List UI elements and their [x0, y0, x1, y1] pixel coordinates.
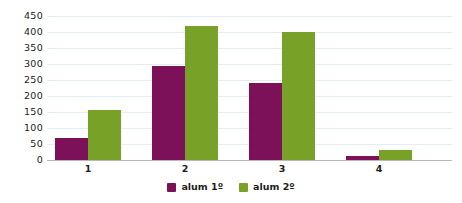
y-axis-tick-label: 250	[3, 75, 43, 85]
plot-area	[47, 16, 452, 160]
y-axis-tick-label: 50	[3, 139, 43, 149]
y-axis-tick-label: 400	[3, 27, 43, 37]
bar	[282, 32, 315, 160]
bar	[249, 83, 282, 160]
bar	[55, 138, 88, 160]
chart-legend: alum 1ºalum 2º	[0, 182, 462, 192]
legend-item[interactable]: alum 1º	[167, 182, 223, 192]
bar-chart: 050100150200250300350400450 1234 alum 1º…	[0, 0, 462, 203]
y-axis-tick-label: 100	[3, 123, 43, 133]
legend-swatch-icon	[167, 183, 176, 192]
x-axis-tick-label: 2	[155, 164, 215, 174]
gridline	[47, 64, 452, 65]
legend-item[interactable]: alum 2º	[239, 182, 295, 192]
legend-swatch-icon	[239, 183, 248, 192]
gridline	[47, 160, 452, 161]
gridline	[47, 48, 452, 49]
gridline	[47, 80, 452, 81]
bar	[88, 110, 121, 160]
bar	[346, 156, 379, 160]
gridline	[47, 32, 452, 33]
bar	[185, 26, 218, 160]
y-axis-tick-label: 350	[3, 43, 43, 53]
x-axis-tick-label: 4	[349, 164, 409, 174]
x-axis-tick-label: 1	[58, 164, 118, 174]
y-axis-tick-label: 300	[3, 59, 43, 69]
y-axis-tick-label: 0	[3, 155, 43, 165]
x-axis-tick-label: 3	[252, 164, 312, 174]
legend-label: alum 2º	[253, 182, 295, 192]
legend-label: alum 1º	[181, 182, 223, 192]
y-axis-tick-label: 200	[3, 91, 43, 101]
bar	[379, 150, 412, 160]
y-axis-tick-label: 150	[3, 107, 43, 117]
y-axis-tick-label: 450	[3, 11, 43, 21]
gridline	[47, 16, 452, 17]
bar	[152, 66, 185, 160]
